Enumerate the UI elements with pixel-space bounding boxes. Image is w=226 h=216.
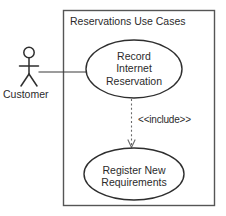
use-case-label-register-new-requirements: Register New Requirements bbox=[84, 164, 184, 189]
use-case-label-record-internet-reservation: Record Internet Reservation bbox=[86, 50, 182, 87]
use-case-label-line: Record bbox=[86, 50, 182, 62]
include-stereotype-label: <<include>> bbox=[138, 114, 191, 126]
system-boundary-title: Reservations Use Cases bbox=[70, 15, 186, 27]
use-case-label-line: Internet bbox=[86, 62, 182, 74]
use-case-label-line: Requirements bbox=[84, 176, 184, 188]
use-case-label-line: Register New bbox=[84, 164, 184, 176]
use-case-diagram: Reservations Use Cases Customer Record I… bbox=[0, 0, 226, 216]
actor-label-customer: Customer bbox=[3, 88, 49, 100]
actor-stick-figure-icon bbox=[20, 47, 39, 86]
use-case-label-line: Reservation bbox=[86, 75, 182, 87]
